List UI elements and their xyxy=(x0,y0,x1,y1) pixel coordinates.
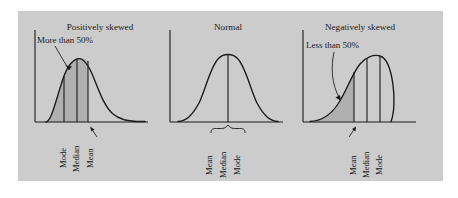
label-mean-panel-2: Mean xyxy=(204,155,214,175)
panel-title-negatively-skewed: Negatively skewed xyxy=(325,22,396,32)
leader-line-less-than-50 xyxy=(332,52,340,99)
annotation-less-than-50: Less than 50% xyxy=(306,40,359,50)
annotation-more-than-50: More than 50% xyxy=(37,35,93,45)
arrowhead-mean-panel-1 xyxy=(90,127,95,132)
panel-negatively-skewed: Negatively skewed Less than 50% Mean Med… xyxy=(303,22,416,178)
label-mode-panel-1: Mode xyxy=(58,148,68,168)
figure-root: Positively skewed More than 50% Mode Med… xyxy=(0,0,458,198)
label-median-panel-2: Median xyxy=(218,151,228,178)
label-mode-panel-3: Mode xyxy=(374,155,384,175)
arrowhead-mean-panel-3 xyxy=(352,127,356,132)
panel-title-positively-skewed: Positively skewed xyxy=(67,22,134,32)
label-mean-panel-1: Mean xyxy=(85,148,95,168)
label-median-panel-3: Median xyxy=(361,151,371,178)
panel-positively-skewed: Positively skewed More than 50% Mode Med… xyxy=(35,22,148,172)
brace-normal xyxy=(211,125,245,133)
panel-normal: Normal Mean Median Mode xyxy=(170,22,283,178)
panel-title-normal: Normal xyxy=(214,22,243,32)
label-mode-panel-2: Mode xyxy=(232,155,242,175)
label-median-panel-1: Median xyxy=(71,145,81,172)
label-mean-panel-3: Mean xyxy=(348,155,358,175)
distribution-comparison-figure: Positively skewed More than 50% Mode Med… xyxy=(0,0,458,198)
